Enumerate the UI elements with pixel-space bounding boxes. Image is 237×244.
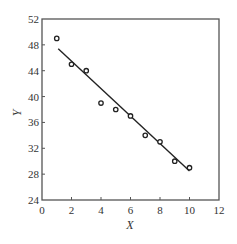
y-tick-label: 36 — [28, 116, 40, 128]
data-point — [173, 159, 177, 163]
y-tick-label: 48 — [28, 39, 40, 51]
data-point — [158, 140, 162, 144]
scatter-chart: 024681012 2428323640444852 X Y — [0, 0, 237, 244]
x-tick-label: 4 — [98, 204, 104, 216]
x-axis-label: X — [125, 218, 134, 232]
x-tick-label: 8 — [157, 204, 163, 216]
data-points — [55, 36, 192, 170]
y-tick-label: 32 — [28, 142, 39, 154]
x-tick-label: 6 — [128, 204, 134, 216]
x-tick-label: 0 — [39, 204, 45, 216]
y-tick-label: 52 — [28, 13, 39, 25]
y-tick-label: 28 — [28, 168, 40, 180]
y-tick-label: 44 — [28, 65, 40, 77]
y-axis-label: Y — [10, 108, 24, 116]
data-point — [84, 69, 88, 73]
data-point — [55, 36, 59, 40]
plot-border — [42, 19, 219, 200]
regression-line — [58, 49, 189, 171]
data-point — [187, 165, 191, 169]
y-tick-label: 24 — [28, 194, 40, 206]
fit-line — [58, 49, 189, 171]
data-point — [143, 133, 147, 137]
x-tick-label: 10 — [184, 204, 196, 216]
data-point — [99, 101, 103, 105]
x-tick-label: 12 — [214, 204, 225, 216]
data-point — [128, 114, 132, 118]
y-tick-label: 40 — [28, 91, 40, 103]
data-point — [114, 107, 118, 111]
plot-frame — [42, 19, 219, 200]
x-tick-label: 2 — [69, 204, 75, 216]
data-point — [69, 62, 73, 66]
